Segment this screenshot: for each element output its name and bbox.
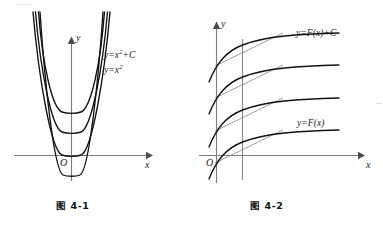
fig1-y-axis (68, 37, 75, 182)
fig2-curve-upper-mid (209, 65, 339, 114)
figure-4-1-canvas (0, 0, 191, 196)
fig1-y-axis-label: y (76, 32, 80, 43)
fig2-origin-label: O (206, 157, 213, 168)
fig2-tangent-lines (215, 33, 283, 163)
fig2-x-axis-label: x (366, 159, 370, 170)
fig2-curve-base (209, 130, 339, 179)
fig2-y-axis-label: y (221, 18, 225, 29)
figure-sheet: y x O y=x2+C y=x2 图 4-1 (0, 0, 383, 227)
fig1-caption: 图 4-1 (56, 198, 89, 212)
scan-artifact (376, 103, 382, 104)
scan-artifact (16, 4, 32, 5)
fig2-x-axis (199, 152, 365, 159)
fig1-label-general-main: y=x (104, 50, 119, 60)
fig1-origin-label: O (60, 157, 67, 168)
fig1-curve-label-general: y=x2+C (104, 48, 136, 60)
figure-4-2-canvas (191, 0, 383, 196)
fig1-curve-label-base: y=x2 (104, 63, 123, 75)
fig2-curve-label-base: y=F(x) (297, 118, 325, 128)
fig1-x-axis-label: x (145, 159, 149, 170)
fig1-label-base-main: y=x (104, 65, 119, 75)
fig1-label-general-tail: +C (123, 50, 136, 60)
fig1-label-base-exponent: 2 (119, 63, 122, 70)
fig2-caption: 图 4-2 (250, 198, 283, 212)
fig2-curve-label-general: y=F(x)+C (296, 28, 337, 38)
fig2-curve-top (209, 33, 339, 82)
